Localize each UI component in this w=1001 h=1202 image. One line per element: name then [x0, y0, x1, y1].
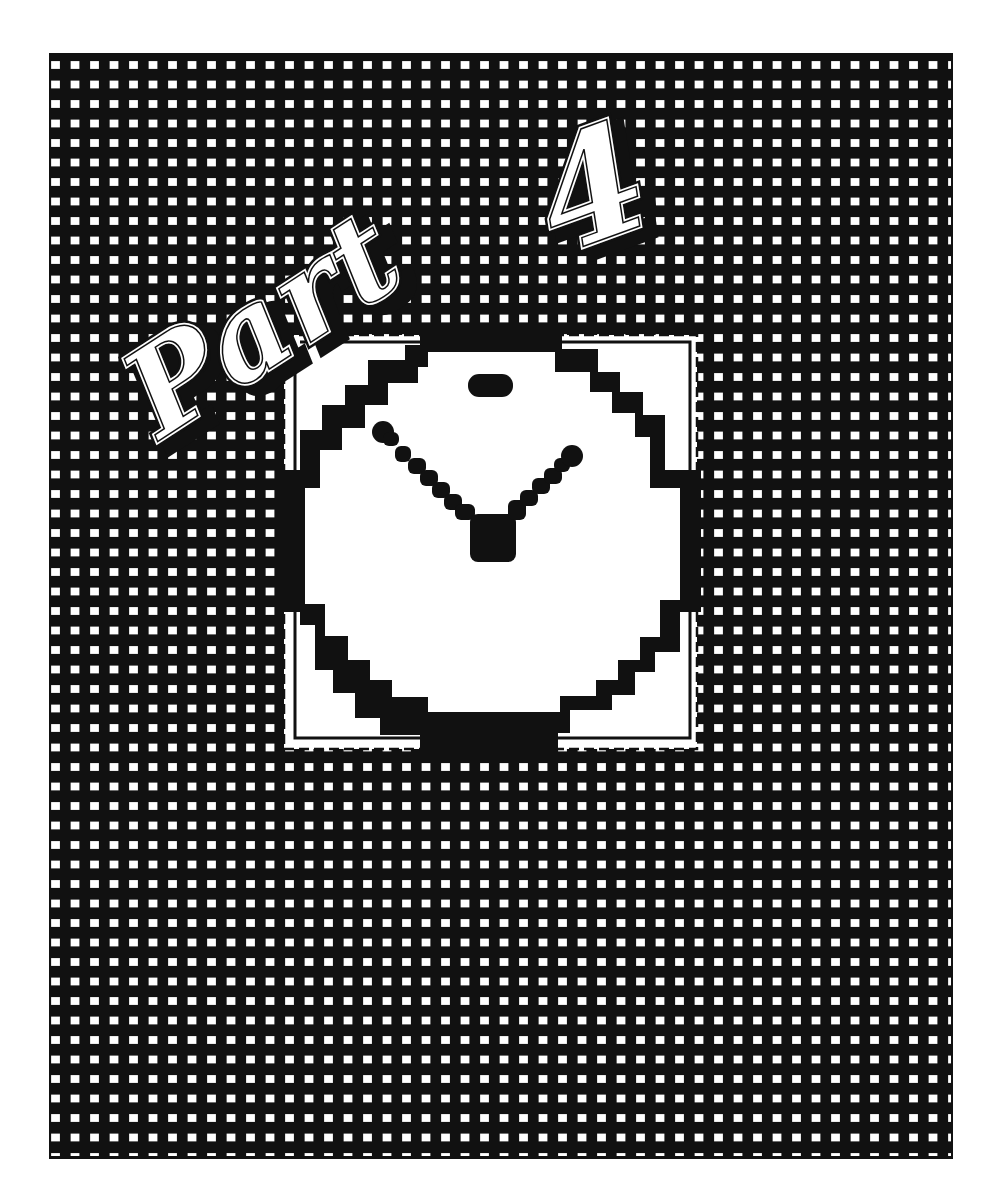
svg-text:4: 4	[512, 87, 670, 288]
illustration-layer: Part Part Part Part 4 4 4 4	[0, 0, 1001, 1202]
hour-marker-12	[468, 374, 513, 397]
page: Part 4	[0, 0, 1001, 1202]
